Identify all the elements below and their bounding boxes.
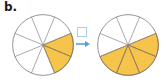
left-fraction-circle-svg (10, 12, 76, 78)
worksheet-problem-b: b. (0, 0, 166, 83)
right-shaded-sectors (100, 33, 158, 75)
left-fraction-circle (10, 12, 76, 82)
left-shaded-sectors (43, 33, 73, 73)
answer-input-box[interactable] (77, 27, 87, 37)
right-arrow-icon (76, 40, 90, 48)
answer-group (76, 27, 92, 49)
right-fraction-circle (95, 12, 161, 82)
right-fraction-circle-svg (95, 12, 161, 78)
